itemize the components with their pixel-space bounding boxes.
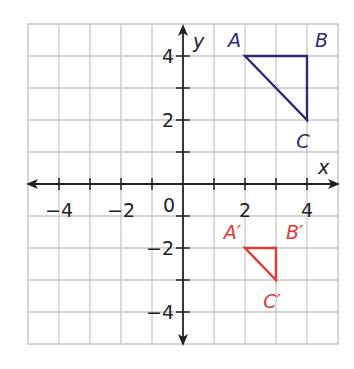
vertex-label: B′ — [286, 221, 304, 243]
triangles: ABCA′B′C′ — [222, 29, 328, 312]
coordinate-plane: −4−22442−2−4 x y 0 ABCA′B′C′ — [0, 0, 354, 369]
x-tick-label: 2 — [239, 199, 251, 221]
vertex-label: C′ — [263, 290, 281, 312]
x-tick-label: 4 — [301, 199, 313, 221]
y-tick-label: 4 — [162, 45, 174, 67]
triangle-image — [245, 248, 276, 280]
x-tick-label: −2 — [107, 199, 135, 221]
y-axis-label: y — [192, 30, 205, 52]
vertex-label: A — [226, 29, 241, 51]
axes — [26, 24, 340, 346]
vertex-label: C — [296, 130, 310, 152]
vertex-label: A′ — [222, 221, 242, 243]
origin-label: 0 — [163, 194, 175, 216]
x-tick-label: −4 — [45, 199, 73, 221]
x-axis-label: x — [317, 156, 330, 178]
vertex-label: B — [315, 29, 328, 51]
y-tick-label: −2 — [146, 237, 174, 259]
y-tick-label: −4 — [146, 301, 174, 323]
y-tick-label: 2 — [162, 109, 174, 131]
